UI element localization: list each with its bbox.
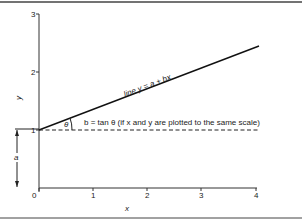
- diagram-canvas: 3 2 1 y 0 1 2 3 4 x line y = a + bx θ b …: [0, 0, 302, 223]
- x-axis-label: x: [124, 204, 130, 213]
- y-tick-label-2: 2: [31, 68, 36, 77]
- arrow-down-icon: [15, 181, 19, 187]
- slope-annotation: b = tan θ (if x and y are plotted to the…: [84, 118, 260, 127]
- angle-arc-icon: [70, 118, 72, 130]
- y-tick-label-1: 1: [31, 126, 36, 135]
- y-tick-label-3: 3: [31, 10, 36, 19]
- x-tick-label-0: 0: [32, 191, 37, 200]
- x-tick-label-1: 1: [91, 191, 96, 200]
- x-tick-label-2: 2: [145, 191, 150, 200]
- line-label: line y = a + bx: [122, 72, 173, 99]
- x-tick-label-3: 3: [199, 191, 204, 200]
- intercept-label: a: [14, 153, 19, 162]
- arrow-up-icon: [15, 130, 19, 136]
- x-tick-label-4: 4: [254, 191, 259, 200]
- angle-label: θ: [64, 120, 69, 129]
- y-axis-label: y: [14, 95, 23, 101]
